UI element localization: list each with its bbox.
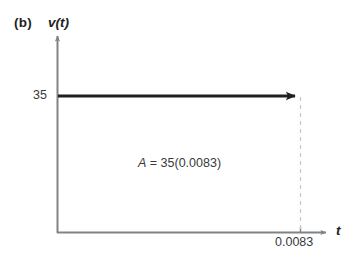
figure-panel-b: (b) v(t) t 35 0.0083 A = 35(0.0083)	[0, 0, 351, 256]
area-annotation: A = 35(0.0083)	[138, 157, 221, 170]
y-tick-label: 35	[33, 89, 47, 102]
plot-canvas	[0, 0, 351, 256]
y-axis-label: v(t)	[48, 16, 69, 30]
area-annotation-equation: = 35(0.0083)	[146, 156, 221, 170]
x-tick-label: 0.0083	[275, 236, 313, 249]
panel-label: (b)	[14, 16, 32, 30]
x-axis-label: t	[336, 224, 341, 238]
